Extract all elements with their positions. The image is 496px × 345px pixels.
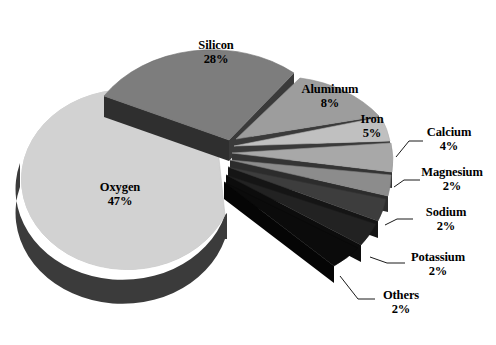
slice-label-sodium: Sodium 2% bbox=[414, 205, 478, 233]
slice-label-oxygen-value: 47% bbox=[80, 194, 160, 208]
slice-label-potassium-value: 2% bbox=[398, 264, 478, 278]
slice-label-oxygen-name: Oxygen bbox=[80, 180, 160, 194]
slice-label-magnesium: Magnesium 2% bbox=[410, 165, 494, 193]
slice-label-aluminum-value: 8% bbox=[295, 96, 365, 110]
slice-label-others-name: Others bbox=[372, 288, 430, 302]
slice-label-magnesium-name: Magnesium bbox=[410, 165, 494, 179]
slice-label-others: Others 2% bbox=[372, 288, 430, 316]
slice-label-silicon-name: Silicon bbox=[178, 38, 254, 52]
slice-label-calcium: Calcium 4% bbox=[418, 125, 480, 153]
pie-chart-page: Silicon 28% Oxygen 47% Aluminum 8% Iron … bbox=[0, 0, 496, 345]
leader-line-sodium bbox=[385, 219, 413, 225]
slice-label-others-value: 2% bbox=[372, 302, 430, 316]
slice-label-sodium-name: Sodium bbox=[414, 205, 478, 219]
leader-line-others bbox=[340, 276, 375, 299]
slice-label-silicon-value: 28% bbox=[178, 52, 254, 66]
slice-label-sodium-value: 2% bbox=[414, 219, 478, 233]
slice-label-potassium-name: Potassium bbox=[398, 250, 478, 264]
slice-label-iron-value: 5% bbox=[351, 126, 393, 140]
slice-label-iron-name: Iron bbox=[351, 112, 393, 126]
slice-label-aluminum: Aluminum 8% bbox=[295, 82, 365, 110]
pie-slice-oxygen-side-edge bbox=[225, 213, 227, 239]
slice-label-oxygen: Oxygen 47% bbox=[80, 180, 160, 208]
slice-label-magnesium-value: 2% bbox=[410, 179, 494, 193]
slice-label-calcium-value: 4% bbox=[418, 139, 480, 153]
slice-label-silicon: Silicon 28% bbox=[178, 38, 254, 66]
slice-label-aluminum-name: Aluminum bbox=[295, 82, 365, 96]
slice-label-calcium-name: Calcium bbox=[418, 125, 480, 139]
slice-label-potassium: Potassium 2% bbox=[398, 250, 478, 278]
slice-label-iron: Iron 5% bbox=[351, 112, 393, 140]
